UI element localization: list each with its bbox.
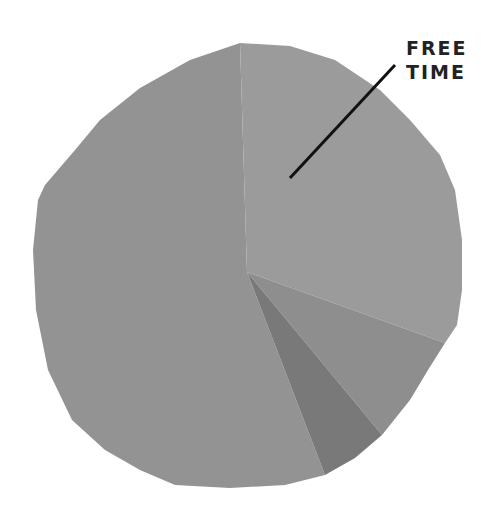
label-line-2: TIME <box>406 60 468 84</box>
label-line-1: FREE <box>406 36 468 60</box>
free-time-label: FREE TIME <box>406 36 468 84</box>
